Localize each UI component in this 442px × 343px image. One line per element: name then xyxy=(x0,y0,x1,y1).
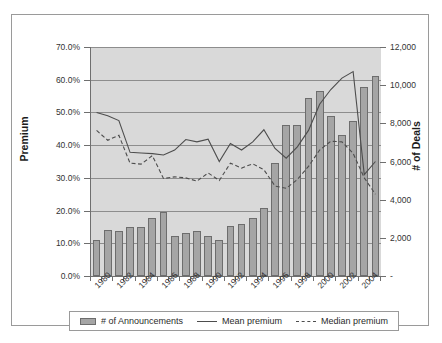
right-axis-tick xyxy=(380,123,386,124)
plot-area xyxy=(90,47,381,277)
x-axis-tick xyxy=(157,276,158,281)
mean-premium-line xyxy=(97,72,376,175)
left-axis-tick xyxy=(84,276,90,277)
dashed-line-icon xyxy=(296,321,316,322)
right-axis-tick-label: - xyxy=(390,272,442,281)
x-axis-tick xyxy=(90,276,91,281)
left-axis-tick-label: 20.0% xyxy=(34,207,80,216)
right-axis-tick xyxy=(380,238,386,239)
left-axis-tick xyxy=(84,211,90,212)
legend-label-median: Median premium xyxy=(321,316,388,326)
x-axis-tick xyxy=(224,276,225,281)
right-axis-tick-label: 8,000 xyxy=(390,119,442,128)
bar-swatch-icon xyxy=(80,318,96,325)
left-axis-tick xyxy=(84,47,90,48)
right-axis-tick xyxy=(380,47,386,48)
left-axis-tick-label: 70.0% xyxy=(34,43,80,52)
left-axis-tick-label: 60.0% xyxy=(34,76,80,85)
right-axis-tick-label: 10,000 xyxy=(390,81,442,90)
chart-frame: Premium # of Deals 0.0%10.0%20.0%30.0%40… xyxy=(11,14,429,326)
left-axis-tick xyxy=(84,145,90,146)
x-axis-tick xyxy=(313,276,314,281)
left-axis-tick-label: 30.0% xyxy=(34,174,80,183)
left-axis-tick xyxy=(84,243,90,244)
plot-clip xyxy=(91,47,381,276)
legend-item-mean: Mean premium xyxy=(197,316,282,326)
right-axis-tick xyxy=(380,200,386,201)
median-premium-line xyxy=(97,130,376,194)
legend-item-announcements: # of Announcements xyxy=(80,316,183,326)
legend-label-announcements: # of Announcements xyxy=(101,316,183,326)
right-axis-tick-label: 4,000 xyxy=(390,196,442,205)
right-axis-tick xyxy=(380,276,386,277)
right-axis-tick-label: 2,000 xyxy=(390,234,442,243)
right-axis-tick-label: 6,000 xyxy=(390,158,442,167)
line-series xyxy=(91,47,381,276)
chart-legend: # of Announcements Mean premium Median p… xyxy=(69,311,399,331)
x-axis-tick xyxy=(246,276,247,281)
right-axis-tick xyxy=(380,162,386,163)
legend-label-mean: Mean premium xyxy=(222,316,282,326)
left-axis-tick xyxy=(84,178,90,179)
left-axis-tick xyxy=(84,80,90,81)
right-axis-tick xyxy=(380,85,386,86)
left-axis-tick-label: 10.0% xyxy=(34,239,80,248)
left-axis-labels: 0.0%10.0%20.0%30.0%40.0%50.0%60.0%70.0% xyxy=(34,47,86,276)
left-axis-tick-label: 50.0% xyxy=(34,108,80,117)
left-axis-tick-label: 0.0% xyxy=(34,272,80,281)
left-axis-title: Premium xyxy=(18,117,30,162)
legend-item-median: Median premium xyxy=(296,316,388,326)
left-axis-tick xyxy=(84,112,90,113)
solid-line-icon xyxy=(197,321,217,322)
right-axis-tick-label: 12,000 xyxy=(390,43,442,52)
left-axis-tick-label: 40.0% xyxy=(34,141,80,150)
right-axis-labels: -2,0004,0006,0008,00010,00012,000 xyxy=(382,47,442,276)
